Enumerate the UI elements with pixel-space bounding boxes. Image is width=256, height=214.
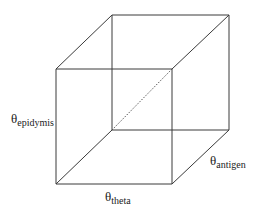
- top-left-depth-edge: [56, 15, 112, 69]
- label-subscript: epidymis: [17, 117, 54, 128]
- bottom-left-depth-edge: [56, 130, 112, 184]
- label-theta: θtheta: [105, 190, 131, 206]
- top-right-depth-edge: [172, 15, 229, 69]
- label-antigen: θantigen: [210, 154, 246, 170]
- space-diagonal-dotted: [112, 69, 172, 130]
- label-subscript: antigen: [216, 159, 245, 170]
- label-epidymis: θepidymis: [11, 112, 54, 128]
- label-subscript: theta: [111, 195, 130, 206]
- cube-diagram: [0, 0, 256, 214]
